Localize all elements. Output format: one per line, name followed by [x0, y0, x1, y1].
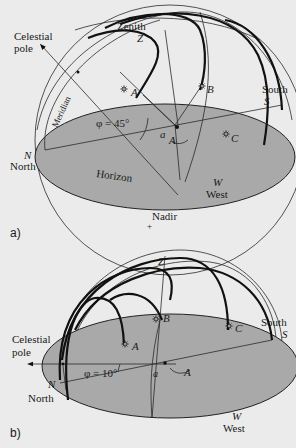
south-label-b: South: [261, 316, 287, 328]
panel-a: Celestial pole Zenith Z Meridian φ = 45°…: [10, 5, 296, 275]
latitude-label: φ = 45°: [96, 117, 129, 129]
panel-b-label: b): [10, 426, 21, 440]
svg-text:pole: pole: [12, 346, 31, 358]
nadir-label: Nadir: [152, 210, 177, 222]
celestial-pole-label: Celestial: [14, 30, 53, 42]
latitude-label-b: φ = 10°: [84, 367, 117, 379]
panel-b: Z Celestial pole φ = 10° a A A B C South…: [10, 250, 296, 440]
star-a: [121, 86, 128, 93]
star-a-b: [122, 341, 129, 348]
svg-text:C: C: [235, 322, 243, 334]
svg-text:a: a: [160, 128, 166, 140]
star-b: [199, 83, 206, 90]
svg-text:+: +: [147, 221, 152, 231]
north-label: North: [10, 160, 36, 172]
zenith-label: Zenith: [117, 20, 146, 32]
svg-text:S: S: [264, 95, 270, 107]
horizon-plane: [35, 104, 295, 210]
svg-text:A: A: [168, 134, 176, 146]
celestial-sphere-diagram: Celestial pole Zenith Z Meridian φ = 45°…: [0, 0, 296, 448]
west-label: West: [206, 188, 228, 200]
svg-text:B: B: [163, 312, 170, 324]
svg-text:S: S: [282, 328, 288, 340]
svg-text:a: a: [153, 368, 158, 379]
svg-text:Z: Z: [158, 255, 165, 267]
panel-a-label: a): [10, 226, 21, 240]
svg-text:W: W: [213, 176, 223, 188]
horizon-plane-b: [42, 314, 296, 418]
svg-text:Z: Z: [137, 32, 144, 44]
star-b-b: [153, 316, 160, 323]
svg-text:A: A: [183, 366, 191, 378]
svg-text:B: B: [207, 83, 214, 95]
star-c: [223, 131, 230, 138]
svg-text:A: A: [130, 86, 138, 98]
svg-text:W: W: [232, 410, 242, 422]
observer: [175, 125, 179, 129]
south-label: South: [262, 83, 288, 95]
svg-text:N: N: [47, 378, 56, 390]
star-c-b: [226, 323, 233, 330]
svg-text:C: C: [231, 132, 239, 144]
west-label-b: West: [223, 422, 245, 434]
observer-b: [163, 361, 167, 365]
celestial-pole-label-b: Celestial: [12, 333, 51, 345]
svg-text:A: A: [131, 340, 139, 352]
north-label-b: North: [28, 392, 54, 404]
svg-text:pole: pole: [14, 42, 33, 54]
